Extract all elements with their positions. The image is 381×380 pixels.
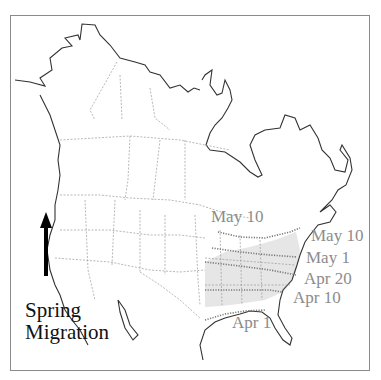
arrow-up-icon: [40, 212, 52, 276]
label-apr20: Apr 20: [304, 270, 352, 287]
title-line1: Spring: [25, 300, 81, 321]
label-may10-inland: May 10: [211, 208, 263, 225]
title-line2: Migration: [25, 322, 109, 343]
label-apr1: Apr 1: [232, 314, 271, 331]
label-may10: May 10: [311, 227, 363, 244]
label-may1: May 1: [306, 249, 350, 266]
label-apr10: Apr 10: [293, 289, 341, 306]
migration-range-shading: [205, 232, 300, 307]
